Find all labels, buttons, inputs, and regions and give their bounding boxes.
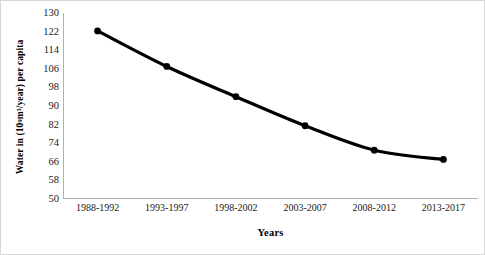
- chart-figure: Water in (109 m³/year) per capita 130122…: [0, 0, 485, 255]
- x-axis-tick-label: 2003-2007: [283, 201, 326, 215]
- y-axis-tick-label: 90: [25, 101, 59, 112]
- x-axis-tick-label: 2013-2017: [422, 201, 465, 215]
- data-point-marker: [371, 147, 378, 154]
- data-point-marker: [233, 93, 240, 100]
- y-axis-tick-labels: 13012211410698908274665850: [23, 1, 59, 255]
- x-axis-tick-label: 1993-1997: [145, 201, 188, 215]
- x-axis-tick-label: 1988-1992: [76, 201, 119, 215]
- y-axis-tick-label: 114: [25, 45, 59, 56]
- y-axis-tick-label: 50: [25, 194, 59, 205]
- line-series: [63, 13, 478, 199]
- y-axis-tick-label: 98: [25, 82, 59, 93]
- y-axis-tick-label: 106: [25, 64, 59, 75]
- data-point-marker: [94, 28, 101, 35]
- x-axis-tick-label: 2008-2012: [353, 201, 396, 215]
- y-axis-tick-label: 130: [25, 8, 59, 19]
- x-axis-title: Years: [63, 227, 478, 238]
- y-axis-tick-label: 122: [25, 26, 59, 37]
- plot-area: [63, 13, 478, 199]
- y-axis-tick-label: 74: [25, 138, 59, 149]
- y-axis-tick-label: 66: [25, 157, 59, 168]
- x-axis-tick-label: 1998-2002: [214, 201, 257, 215]
- x-axis-tick-labels: 1988-19921993-19971998-20022003-20072008…: [63, 201, 478, 219]
- data-point-marker: [440, 156, 447, 163]
- data-point-marker: [163, 63, 170, 70]
- series-line: [98, 31, 444, 160]
- data-point-marker: [302, 122, 309, 129]
- y-axis-tick-label: 58: [25, 175, 59, 186]
- y-axis-tick-label: 82: [25, 119, 59, 130]
